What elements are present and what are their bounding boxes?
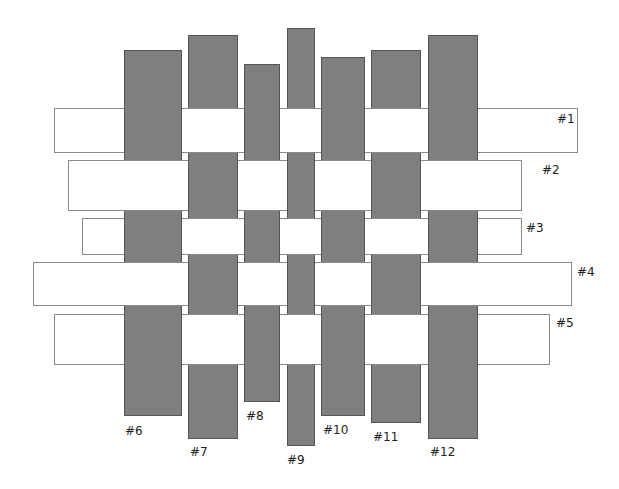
bar-label-6: #6 [125, 425, 143, 437]
crossing-strip-2-over-bar-10 [320, 160, 366, 211]
crossing-strip-5-over-bar-7 [187, 314, 239, 365]
crossing-strip-3-over-bar-9 [286, 218, 316, 255]
bar-label-11: #11 [373, 431, 398, 443]
crossing-strip-4-over-bar-8 [243, 262, 281, 306]
crossing-strip-5-over-bar-9 [286, 314, 316, 365]
bar-label-10: #10 [323, 424, 348, 436]
strip-label-4: #4 [577, 266, 595, 278]
crossing-strip-2-over-bar-8 [243, 160, 281, 211]
vertical-bar-12 [428, 35, 478, 439]
crossing-strip-3-over-bar-11 [370, 218, 422, 255]
strip-label-1: #1 [557, 113, 575, 125]
crossing-strip-1-over-bar-9 [286, 108, 316, 153]
vertical-bar-10 [321, 57, 365, 416]
crossing-strip-4-over-bar-6 [123, 262, 183, 306]
weave-diagram: #1#2#3#4#5#6#7#8#9#10#11#12 [0, 0, 619, 489]
crossing-strip-2-over-bar-12 [427, 160, 479, 211]
crossing-strip-4-over-bar-10 [320, 262, 366, 306]
bar-label-8: #8 [246, 410, 264, 422]
crossing-strip-1-over-bar-11 [370, 108, 422, 153]
crossing-strip-4-over-bar-12 [427, 262, 479, 306]
strip-label-5: #5 [556, 317, 574, 329]
crossing-strip-3-over-bar-7 [187, 218, 239, 255]
strip-label-3: #3 [526, 222, 544, 234]
bar-label-12: #12 [430, 446, 455, 458]
crossing-strip-5-over-bar-11 [370, 314, 422, 365]
crossing-strip-1-over-bar-7 [187, 108, 239, 153]
bar-label-7: #7 [190, 446, 208, 458]
vertical-bar-6 [124, 50, 182, 416]
vertical-bar-8 [244, 64, 280, 402]
bar-label-9: #9 [287, 454, 305, 466]
strip-label-2: #2 [542, 164, 560, 176]
crossing-strip-2-over-bar-6 [123, 160, 183, 211]
